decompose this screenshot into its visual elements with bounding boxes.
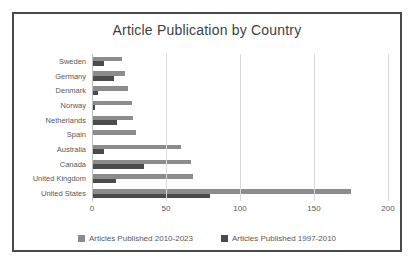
legend-label: Articles Published 2010-2023	[89, 234, 193, 243]
bar-series-2	[92, 120, 117, 125]
gridline	[314, 54, 315, 201]
category-label: Denmark	[20, 83, 92, 98]
legend-item: Articles Published 1997-2010	[221, 234, 336, 243]
category-label: Australia	[20, 142, 92, 157]
chart-image: Article Publication by Country SwedenGer…	[0, 0, 411, 265]
chart-title: Article Publication by Country	[14, 22, 400, 38]
x-tick-label: 150	[307, 204, 320, 213]
bar-series-2	[92, 164, 144, 169]
gridline	[388, 54, 389, 201]
x-tick-label: 50	[162, 204, 171, 213]
legend-marker-icon	[78, 235, 85, 242]
bar-series-2	[92, 61, 104, 66]
category-label: United Kingdom	[20, 172, 92, 187]
legend-marker-icon	[221, 235, 228, 242]
category-label: Norway	[20, 98, 92, 113]
x-tick-label: 100	[233, 204, 246, 213]
category-axis: SwedenGermanyDenmarkNorwayNetherlandsSpa…	[20, 54, 92, 217]
legend: Articles Published 2010-2023Articles Pub…	[14, 234, 400, 243]
category-label: Spain	[20, 127, 92, 142]
category-label: Canada	[20, 157, 92, 172]
gridline	[240, 54, 241, 201]
gridline	[166, 54, 167, 201]
x-tick-label: 0	[90, 204, 94, 213]
bar-series-1	[92, 145, 181, 150]
bar-series-2	[92, 194, 210, 199]
value-axis: 050100150200	[92, 201, 388, 217]
chart-grid: SwedenGermanyDenmarkNorwayNetherlandsSpa…	[20, 54, 388, 217]
plot-wrap: 050100150200	[92, 54, 388, 217]
category-label: United States	[20, 186, 92, 201]
legend-label: Articles Published 1997-2010	[232, 234, 336, 243]
plot-area	[92, 54, 388, 201]
legend-item: Articles Published 2010-2023	[78, 234, 193, 243]
bar-series-1	[92, 130, 136, 135]
bar-series-2	[92, 149, 104, 154]
bar-series-2	[92, 179, 116, 184]
axis-zero-line	[92, 54, 93, 201]
chart-frame: Article Publication by Country SwedenGer…	[12, 12, 402, 252]
category-label: Sweden	[20, 54, 92, 69]
bar-series-1	[92, 101, 132, 106]
category-label: Netherlands	[20, 113, 92, 128]
bar-series-2	[92, 76, 114, 81]
category-label: Germany	[20, 69, 92, 84]
x-tick-label: 200	[381, 204, 394, 213]
